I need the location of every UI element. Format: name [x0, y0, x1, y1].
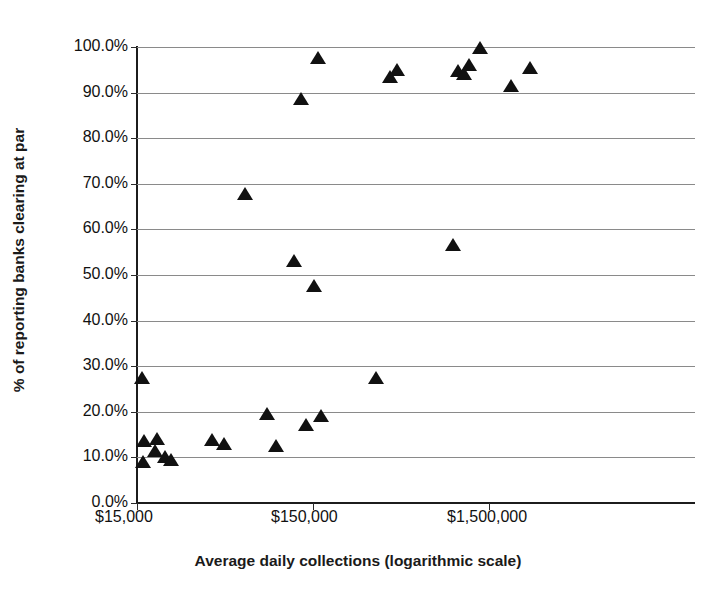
data-point-marker: [445, 238, 461, 251]
data-point-marker: [368, 371, 384, 384]
y-tick-mark: [131, 366, 137, 367]
y-tick-mark: [131, 229, 137, 230]
gridline: [137, 47, 695, 48]
data-point-marker: [216, 437, 232, 450]
data-point-marker: [313, 409, 329, 422]
data-point-marker: [298, 418, 314, 431]
gridline: [137, 229, 695, 230]
data-point-marker: [268, 439, 284, 452]
x-tick-mark: [137, 503, 138, 510]
y-tick-label: 90.0%: [36, 83, 128, 101]
gridline: [137, 366, 695, 367]
data-point-marker: [522, 61, 538, 74]
y-tick-mark: [131, 138, 137, 139]
y-axis-title-text: % of reporting banks clearing at par: [10, 128, 28, 392]
x-tick-mark: [313, 503, 314, 510]
y-tick-mark: [131, 412, 137, 413]
data-point-marker: [461, 58, 477, 71]
data-point-marker: [286, 254, 302, 267]
y-tick-label: 10.0%: [36, 447, 128, 465]
data-point-marker: [306, 279, 322, 292]
data-point-marker: [163, 453, 179, 466]
y-tick-label: 100.0%: [36, 37, 128, 55]
y-tick-label: 60.0%: [36, 219, 128, 237]
plot-area: [137, 47, 695, 503]
data-point-marker: [503, 79, 519, 92]
data-point-marker: [293, 92, 309, 105]
y-tick-mark: [131, 93, 137, 94]
data-point-marker: [472, 41, 488, 54]
chart-figure: % of reporting banks clearing at par 0.0…: [0, 0, 716, 597]
data-point-marker: [237, 187, 253, 200]
gridline: [137, 275, 695, 276]
y-tick-label: 20.0%: [36, 402, 128, 420]
y-tick-label: 40.0%: [36, 311, 128, 329]
gridline: [137, 184, 695, 185]
data-point-marker: [259, 407, 275, 420]
gridline: [137, 412, 695, 413]
y-tick-mark: [131, 184, 137, 185]
data-point-marker: [310, 51, 326, 64]
y-tick-mark: [131, 275, 137, 276]
data-point-marker: [135, 455, 151, 468]
gridline: [137, 321, 695, 322]
gridline: [137, 93, 695, 94]
y-tick-label: 80.0%: [36, 128, 128, 146]
y-tick-label: 70.0%: [36, 174, 128, 192]
data-point-marker: [389, 63, 405, 76]
x-tick-mark: [489, 503, 490, 510]
x-axis-line: [136, 502, 695, 504]
x-tick-label: $1,500,000: [447, 508, 527, 526]
y-tick-label: 50.0%: [36, 265, 128, 283]
x-axis-title: Average daily collections (logarithmic s…: [0, 552, 716, 570]
y-tick-mark: [131, 457, 137, 458]
x-tick-label: $15,000: [95, 508, 153, 526]
gridline: [137, 457, 695, 458]
y-tick-mark: [131, 47, 137, 48]
y-tick-label: 30.0%: [36, 356, 128, 374]
x-tick-label: $150,000: [271, 508, 338, 526]
y-tick-mark: [131, 321, 137, 322]
y-axis-title: % of reporting banks clearing at par: [2, 0, 36, 520]
gridline: [137, 138, 695, 139]
data-point-marker: [134, 371, 150, 384]
